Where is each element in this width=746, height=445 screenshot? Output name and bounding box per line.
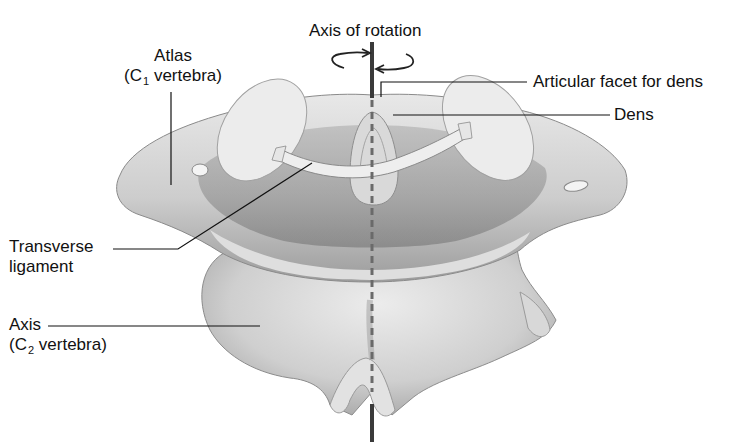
label-atlas-c1: (C1 vertebra) <box>111 66 235 87</box>
label-dens: Dens <box>614 105 654 125</box>
rotation-arrow-right-icon <box>376 54 413 73</box>
label-atlas-name: Atlas <box>111 46 235 66</box>
label-axis-of-rotation: Axis of rotation <box>309 21 421 41</box>
label-axis-c2: (C2 vertebra) <box>9 335 107 356</box>
label-axis-name: Axis <box>9 315 107 335</box>
label-axis: Axis (C2 vertebra) <box>9 315 107 356</box>
label-articular-facet-for-dens: Articular facet for dens <box>533 72 703 92</box>
rotation-arrow-left-icon <box>332 49 370 68</box>
label-atlas: Atlas (C1 vertebra) <box>111 46 235 87</box>
label-transverse-ligament: Transverse ligament <box>9 237 93 277</box>
